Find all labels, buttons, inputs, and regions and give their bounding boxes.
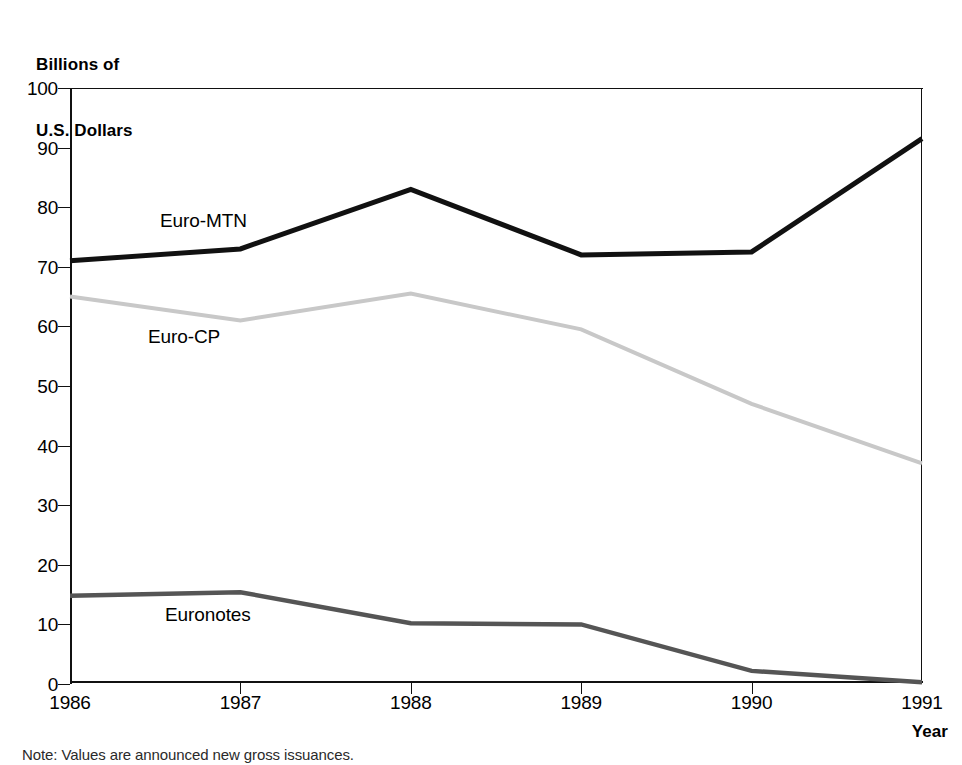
y-axis-tick-label: 60 — [12, 317, 58, 336]
x-axis-tick-label: 1986 — [35, 692, 105, 714]
series-label-euro-cp: Euro-CP — [148, 327, 220, 346]
y-axis-tick — [58, 148, 70, 149]
chart-footnote: Note: Values are announced new gross iss… — [22, 746, 354, 764]
y-axis-tick — [58, 386, 70, 387]
y-axis-tick-label: 100 — [12, 79, 58, 98]
y-axis-tick-label: 80 — [12, 198, 58, 217]
y-axis-tick-labels: 0102030405060708090100 — [12, 88, 58, 683]
y-axis-tick-label: 50 — [12, 377, 58, 396]
y-axis-tick-label: 20 — [12, 556, 58, 575]
x-axis-title: Year — [912, 722, 948, 742]
y-axis-tick — [58, 446, 70, 447]
plot-area — [70, 88, 922, 683]
y-axis-tick — [58, 88, 70, 89]
x-axis-tick-label: 1991 — [887, 692, 957, 714]
y-axis-tick-label: 40 — [12, 437, 58, 456]
y-axis-tick — [58, 684, 70, 685]
y-axis-tick — [58, 267, 70, 268]
y-axis-tick — [58, 326, 70, 327]
y-axis-tick — [58, 565, 70, 566]
x-axis-tick-label: 1987 — [205, 692, 275, 714]
y-axis-tick-label: 70 — [12, 258, 58, 277]
y-axis-tick-label: 90 — [12, 139, 58, 158]
y-axis-tick — [58, 505, 70, 506]
chart-figure: Billions of U.S. Dollars 010203040506070… — [0, 0, 962, 765]
y-axis-tick-label: 10 — [12, 615, 58, 634]
y-axis-tick — [58, 207, 70, 208]
y-axis-tick-label: 30 — [12, 496, 58, 515]
x-axis-tick-label: 1989 — [546, 692, 616, 714]
y-axis-tick — [58, 624, 70, 625]
series-label-euro-mtn: Euro-MTN — [160, 211, 247, 230]
x-axis-tick-label: 1990 — [717, 692, 787, 714]
y-axis-caption-line-1: Billions of — [36, 54, 133, 76]
series-label-euronotes: Euronotes — [165, 605, 251, 624]
x-axis-tick-labels: 198619871988198919901991 — [0, 692, 962, 718]
x-axis-tick-label: 1988 — [376, 692, 446, 714]
series-lines — [70, 88, 923, 684]
series-line-euro-cp — [70, 294, 922, 464]
series-line-euro-mtn — [70, 139, 922, 261]
